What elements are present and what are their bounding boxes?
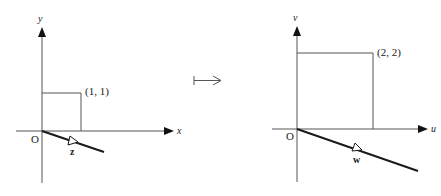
left-origin-label: O [31, 133, 39, 145]
image-square [297, 53, 373, 129]
left-y-axis-arrowhead-icon [38, 27, 46, 37]
right-vector-label: w [353, 154, 361, 165]
right-direction-triangle-icon [352, 143, 362, 151]
right-x-axis-label: u [431, 123, 436, 134]
left-x-axis-arrowhead-icon [164, 127, 174, 135]
right-x-axis-arrowhead-icon [418, 125, 428, 133]
left-vector-label: z [70, 146, 75, 157]
left-x-axis-label: x [176, 125, 182, 136]
right-panel: v u (2, 2) O w [272, 12, 436, 182]
right-y-axis-label: v [293, 12, 298, 23]
right-corner-label: (2, 2) [377, 46, 401, 59]
diagram-canvas: y x (1, 1) O z v u (2, 2) O [0, 0, 441, 196]
left-corner-label: (1, 1) [85, 85, 109, 98]
maps-to-arrow-icon [194, 76, 221, 85]
right-origin-label: O [286, 130, 294, 142]
left-panel: y x (1, 1) O z [16, 13, 182, 183]
right-y-axis-arrowhead-icon [293, 26, 301, 36]
unit-square [42, 93, 81, 131]
left-y-axis-label: y [37, 13, 43, 24]
